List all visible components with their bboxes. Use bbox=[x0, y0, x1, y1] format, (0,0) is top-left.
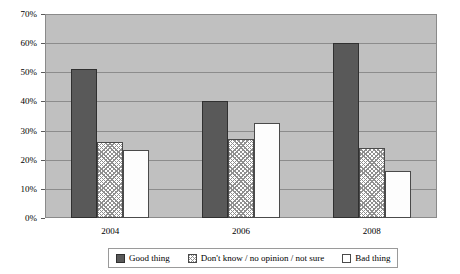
y-axis-tick-label: 0% bbox=[25, 214, 37, 223]
bar-group bbox=[176, 14, 307, 218]
bar-dontknow-2006 bbox=[228, 139, 254, 218]
legend-item-good[interactable]: Good thing bbox=[116, 253, 170, 263]
y-axis-tick-label: 30% bbox=[21, 126, 38, 135]
bar-bad-2004 bbox=[123, 150, 149, 218]
x-axis-tick-label: 2006 bbox=[232, 226, 250, 236]
legend-swatch-dontknow-icon bbox=[188, 254, 197, 263]
y-axis-tick-label: 50% bbox=[21, 68, 38, 77]
legend-swatch-good-icon bbox=[116, 254, 125, 263]
bar-bad-2008 bbox=[385, 171, 411, 218]
bar-group bbox=[306, 14, 437, 218]
y-axis-tick-label: 70% bbox=[21, 10, 38, 19]
x-axis-tick-label: 2008 bbox=[363, 226, 381, 236]
legend-swatch-bad-icon bbox=[342, 254, 351, 263]
bars-layer bbox=[45, 14, 437, 218]
chart-legend: Good thingDon't know / no opinion / not … bbox=[108, 248, 398, 268]
y-axis: 0%10%20%30%40%50%60%70% bbox=[0, 0, 45, 232]
legend-item-label: Bad thing bbox=[355, 253, 390, 263]
y-axis-tick-label: 60% bbox=[21, 39, 38, 48]
y-axis-tick-label: 40% bbox=[21, 97, 38, 106]
y-axis-tick-label: 10% bbox=[21, 184, 38, 193]
y-axis-tick-label: 20% bbox=[21, 155, 38, 164]
bar-dontknow-2008 bbox=[359, 148, 385, 218]
x-axis: 200420062008 bbox=[45, 218, 437, 240]
bar-good-2008 bbox=[333, 43, 359, 218]
legend-item-bad[interactable]: Bad thing bbox=[342, 253, 390, 263]
bar-good-2006 bbox=[202, 101, 228, 218]
legend-item-label: Good thing bbox=[129, 253, 170, 263]
bar-group bbox=[45, 14, 176, 218]
bar-good-2004 bbox=[71, 69, 97, 218]
x-axis-tick-label: 2004 bbox=[101, 226, 119, 236]
bar-chart: 0%10%20%30%40%50%60%70% 200420062008 Goo… bbox=[0, 0, 460, 274]
bar-bad-2006 bbox=[254, 123, 280, 218]
cropped-caption bbox=[30, 0, 430, 3]
legend-item-dontknow[interactable]: Don't know / no opinion / not sure bbox=[188, 253, 324, 263]
legend-item-label: Don't know / no opinion / not sure bbox=[201, 253, 324, 263]
bar-dontknow-2004 bbox=[97, 142, 123, 218]
